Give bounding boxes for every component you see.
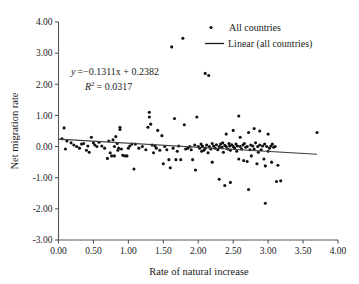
scatter-point: [110, 154, 113, 157]
y-axis-tick-labels: 4.003.002.001.000.00-1.00-2.00-3.00: [33, 17, 53, 245]
scatter-point: [254, 141, 257, 144]
scatter-point: [173, 117, 176, 120]
r-squared-text: R2= 0.0317: [84, 80, 132, 92]
scatter-point: [253, 127, 256, 130]
scatter-point: [193, 143, 196, 146]
legend-label-linear: Linear (all countries): [228, 38, 312, 50]
scatter-point: [174, 158, 177, 161]
scatter-point: [144, 148, 147, 151]
scatter-point: [86, 144, 89, 147]
scatter-point: [179, 158, 182, 161]
scatter-point: [275, 180, 278, 183]
legend-point-marker-icon: [209, 26, 212, 29]
x-axis-title: Rate of natural increase: [149, 266, 249, 277]
scatter-point: [264, 202, 267, 205]
scatter-point: [191, 158, 194, 161]
scatter-point: [246, 145, 249, 148]
scatter-point: [221, 141, 224, 144]
y-tick-label: -2.00: [33, 204, 53, 214]
scatter-point: [137, 147, 140, 150]
scatter-point: [258, 129, 261, 132]
scatter-point: [236, 144, 239, 147]
scatter-point: [232, 129, 235, 132]
scatter-point: [106, 157, 109, 160]
x-tick-label: 3.50: [295, 246, 312, 256]
scatter-point: [243, 142, 246, 145]
r-squared-variable: R: [84, 81, 91, 92]
scatter-point: [148, 111, 151, 114]
scatter-point: [72, 143, 75, 146]
scatter-point: [246, 160, 249, 163]
scatter-point: [225, 133, 228, 136]
scatter-point: [162, 162, 165, 165]
scatter-point: [229, 181, 232, 184]
scatter-point: [117, 147, 120, 150]
scatter-points: [60, 37, 318, 205]
scatter-point: [176, 150, 179, 153]
scatter-point: [125, 154, 128, 157]
scatter-chart-figure: 4.003.002.001.000.00-1.00-2.00-3.00 0.00…: [0, 0, 359, 284]
scatter-point: [247, 188, 250, 191]
scatter-point: [114, 135, 117, 138]
scatter-point: [204, 72, 207, 75]
scatter-point: [183, 123, 186, 126]
scatter-point: [276, 164, 279, 167]
scatter-point: [158, 149, 161, 152]
scatter-point: [120, 148, 123, 151]
scatter-point: [75, 145, 78, 148]
scatter-point: [271, 143, 274, 146]
scatter-point: [250, 154, 253, 157]
scatter-point: [270, 161, 273, 164]
x-tick-label: 4.00: [330, 246, 347, 256]
r-squared-body: = 0.0317: [97, 81, 133, 92]
x-tick-label: 1.50: [155, 246, 172, 256]
regression-annotation: y=−0.1311x + 0.2382 R2= 0.0317: [70, 66, 159, 92]
scatter-point: [265, 145, 268, 148]
scatter-point: [195, 115, 198, 118]
scatter-point: [167, 158, 170, 161]
y-tick-label: 1.00: [36, 111, 53, 121]
scatter-point: [63, 126, 66, 129]
scatter-point: [152, 151, 155, 154]
scatter-point: [279, 179, 282, 182]
scatter-point: [82, 142, 85, 145]
scatter-point: [190, 148, 193, 151]
scatter-point: [155, 147, 158, 150]
y-tick-label: 2.00: [36, 80, 53, 90]
axes: [59, 22, 339, 240]
scatter-point: [242, 159, 245, 162]
scatter-point: [222, 151, 225, 154]
y-tick-label: -1.00: [33, 173, 53, 183]
y-tick-label: 0.00: [36, 142, 53, 152]
scatter-point: [141, 145, 144, 148]
x-tick-label: 0.50: [85, 246, 102, 256]
scatter-point: [88, 151, 91, 154]
x-tick-label: 2.00: [190, 246, 207, 256]
scatter-point: [239, 136, 242, 139]
regression-equation-text: y=−0.1311x + 0.2382: [70, 66, 159, 77]
scatter-point: [64, 148, 67, 151]
scatter-point: [315, 131, 318, 134]
x-tick-label: 3.00: [260, 246, 277, 256]
scatter-point: [113, 145, 116, 148]
scatter-point: [262, 157, 265, 160]
scatter-point: [215, 143, 218, 146]
scatter-point: [109, 151, 112, 154]
x-tick-label: 2.50: [225, 246, 242, 256]
scatter-point: [274, 145, 277, 148]
scatter-point: [165, 148, 168, 151]
scatter-point: [267, 133, 270, 136]
x-axis-tick-labels: 0.000.501.001.502.002.503.003.504.00: [50, 246, 346, 256]
scatter-point: [156, 129, 159, 132]
scatter-point: [172, 147, 175, 150]
r-squared-exponent: 2: [91, 80, 95, 88]
equation-body: =−0.1311x + 0.2382: [77, 66, 159, 77]
chart-canvas: 4.003.002.001.000.00-1.00-2.00-3.00 0.00…: [0, 0, 359, 284]
scatter-point: [206, 151, 209, 154]
scatter-point: [263, 143, 266, 146]
y-tick-label: 3.00: [36, 48, 53, 58]
scatter-point: [95, 145, 98, 148]
scatter-point: [237, 115, 240, 118]
scatter-point: [255, 162, 258, 165]
legend: All countries Linear (all countries): [205, 22, 312, 50]
